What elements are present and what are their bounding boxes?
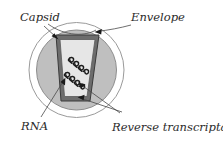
retrovirus-diagram: Capsid Envelope RNA Reverse transcriptas… xyxy=(0,0,223,141)
label-capsid: Capsid xyxy=(20,10,60,24)
diagram-canvas: Capsid Envelope RNA Reverse transcriptas… xyxy=(0,0,223,141)
envelope-leader-line xyxy=(97,25,131,32)
label-envelope: Envelope xyxy=(130,10,185,24)
label-reverse-transcriptase: Reverse transcriptase xyxy=(111,120,223,134)
label-rna: RNA xyxy=(20,119,48,133)
